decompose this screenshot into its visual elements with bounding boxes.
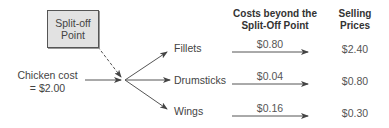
- prices-header-line1: Selling: [330, 8, 380, 20]
- product-label-wings: Wings: [174, 105, 203, 117]
- dashed-arrow: [98, 47, 121, 77]
- selling-price-drumsticks: $0.80: [330, 75, 380, 87]
- costs-header-line1: Costs beyond the: [220, 8, 330, 20]
- branch-arrow-wings: [125, 80, 167, 109]
- product-label-drumsticks: Drumsticks: [174, 74, 226, 86]
- prices-header: Selling Prices: [330, 8, 380, 32]
- further-cost-wings: $0.16: [245, 102, 295, 114]
- prices-header-line2: Prices: [330, 20, 380, 32]
- costs-header: Costs beyond the Split-Off Point: [220, 8, 330, 32]
- costs-header-line2: Split-Off Point: [220, 20, 330, 32]
- product-label-fillets: Fillets: [174, 42, 201, 54]
- further-cost-drumsticks: $0.04: [245, 70, 295, 82]
- source-line2: = $2.00: [10, 82, 85, 95]
- split-off-point-box: Split-off Point: [47, 10, 99, 48]
- selling-price-wings: $0.30: [330, 107, 380, 119]
- chicken-cost-label: Chicken cost = $2.00: [10, 69, 85, 95]
- further-cost-fillets: $0.80: [245, 38, 295, 50]
- branch-arrow-fillets: [125, 52, 167, 80]
- source-line1: Chicken cost: [10, 69, 85, 82]
- box-line1: Split-off: [55, 17, 90, 29]
- box-line2: Point: [61, 29, 85, 41]
- selling-price-fillets: $2.40: [330, 43, 380, 55]
